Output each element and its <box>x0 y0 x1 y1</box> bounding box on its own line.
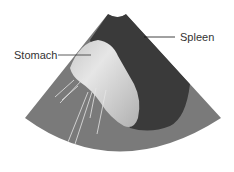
ultrasound-sector-graphic <box>0 0 234 172</box>
ultrasound-diagram: Stomach Spleen <box>0 0 234 172</box>
stomach-label: Stomach <box>14 49 57 61</box>
spleen-label: Spleen <box>180 31 214 43</box>
